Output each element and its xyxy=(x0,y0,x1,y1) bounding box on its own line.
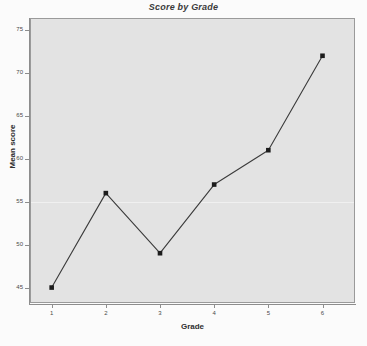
y-tick-label: 45 xyxy=(16,283,23,292)
x-tick: 4 xyxy=(214,304,215,305)
y-tick-label: 50 xyxy=(16,240,23,249)
x-tick: 6 xyxy=(323,304,324,305)
y-axis-line xyxy=(29,18,30,304)
y-tick-label: 55 xyxy=(16,197,23,206)
x-tick-label: 5 xyxy=(258,310,278,316)
y-tick-label: 65 xyxy=(16,111,23,120)
y-tick-mark xyxy=(25,159,29,160)
x-tick-label: 3 xyxy=(150,310,170,316)
plot-area xyxy=(30,18,355,303)
y-tick-mark xyxy=(25,288,29,289)
x-tick: 5 xyxy=(268,304,269,305)
x-tick-label: 2 xyxy=(96,310,116,316)
x-tick-mark xyxy=(106,304,107,308)
x-axis-line xyxy=(29,304,356,305)
x-tick-mark xyxy=(323,304,324,308)
y-tick: 50 xyxy=(0,245,29,246)
x-tick-mark xyxy=(214,304,215,308)
y-tick: 70 xyxy=(0,73,29,74)
y-tick-mark xyxy=(25,245,29,246)
x-tick-mark xyxy=(52,304,53,308)
x-tick-mark xyxy=(160,304,161,308)
gridline-y xyxy=(31,202,354,203)
x-tick-label: 6 xyxy=(313,310,333,316)
y-tick-mark xyxy=(25,116,29,117)
x-tick: 3 xyxy=(160,304,161,305)
x-tick: 1 xyxy=(52,304,53,305)
chart-figure: Score by Grade 45505560657075 123456 Gra… xyxy=(0,0,367,346)
x-tick: 2 xyxy=(106,304,107,305)
y-tick-label: 60 xyxy=(16,154,23,163)
y-tick-label: 75 xyxy=(16,25,23,34)
y-tick: 55 xyxy=(0,202,29,203)
x-tick-label: 4 xyxy=(204,310,224,316)
x-tick-mark xyxy=(268,304,269,308)
x-tick-label: 1 xyxy=(42,310,62,316)
y-tick-mark xyxy=(25,73,29,74)
y-tick: 45 xyxy=(0,288,29,289)
chart-title: Score by Grade xyxy=(0,2,367,12)
y-tick: 75 xyxy=(0,30,29,31)
x-axis-title: Grade xyxy=(30,322,355,331)
y-tick-label: 70 xyxy=(16,68,23,77)
y-axis-title: Mean score xyxy=(8,107,17,187)
y-tick-mark xyxy=(25,202,29,203)
y-tick-mark xyxy=(25,30,29,31)
